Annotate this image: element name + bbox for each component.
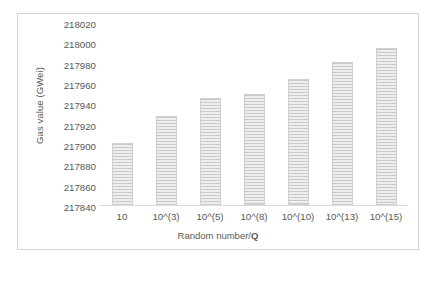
x-axis-tick-label: 10^(5) [188,211,232,222]
bar-series [100,28,408,205]
y-axis-tick-label: 217960 [42,79,96,90]
x-axis-tick-label: 10^(3) [144,211,188,222]
bar-slot [100,28,144,205]
x-axis-tick-label: 10^(8) [232,211,276,222]
bar-slot [144,28,188,205]
x-axis-title-text: Random number/ [178,230,251,241]
y-axis-tick-label: 217900 [42,140,96,151]
x-axis-line [100,205,408,207]
bar-slot [188,28,232,205]
x-axis-tick-label: 10^(13) [320,211,364,222]
bar[interactable] [156,116,177,205]
plot-area [100,28,408,206]
bar[interactable] [376,48,397,205]
x-axis-tick-labels: 10 10^(3) 10^(5) 10^(8) 10^(10) 10^(13) … [100,211,408,222]
chart-frame: Gas value (GWei) 218020 218000 217980 21… [17,13,419,250]
y-axis-tick-label: 218020 [42,19,96,30]
x-axis-tick-label: 10 [100,211,144,222]
bar[interactable] [200,98,221,205]
bar-slot [320,28,364,205]
bar-slot [276,28,320,205]
y-axis-tick-labels: 218020 218000 217980 217960 217940 21792… [42,24,96,207]
bar[interactable] [288,79,309,205]
y-axis-tick-label: 217980 [42,59,96,70]
y-axis-tick-label: 217840 [42,202,96,213]
y-axis-tick-label: 217860 [42,181,96,192]
y-axis-tick-label: 217940 [42,100,96,111]
x-axis-title: Random number/Q [18,230,418,241]
x-axis-tick-label: 10^(15) [364,211,408,222]
bar[interactable] [244,94,265,205]
x-axis-title-symbol: Q [251,230,258,241]
bar[interactable] [332,62,353,205]
y-axis-tick-label: 217880 [42,161,96,172]
x-axis-tick-label: 10^(10) [276,211,320,222]
y-axis-tick-label: 218000 [42,39,96,50]
bar-slot [232,28,276,205]
y-axis-tick-label: 217920 [42,120,96,131]
bar[interactable] [112,143,133,205]
bar-slot [364,28,408,205]
